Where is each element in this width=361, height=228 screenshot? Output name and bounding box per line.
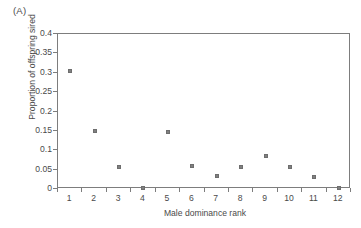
data-point <box>215 174 219 178</box>
data-point <box>68 69 72 73</box>
x-tick-label: 11 <box>300 193 326 203</box>
x-tick-mark <box>252 188 253 192</box>
x-tick-label: 7 <box>203 193 229 203</box>
x-tick-label: 6 <box>178 193 204 203</box>
y-tick-label: 0.15 <box>20 125 52 135</box>
y-tick-label: 0.35 <box>20 47 52 57</box>
panel-label: (A) <box>13 5 26 16</box>
x-tick-label: 10 <box>276 193 302 203</box>
x-tick-mark <box>130 188 131 192</box>
data-point <box>288 165 292 169</box>
x-tick-mark <box>301 188 302 192</box>
data-point <box>93 129 97 133</box>
x-tick-label: 5 <box>154 193 180 203</box>
y-tick-label: 0.3 <box>20 67 52 77</box>
x-tick-mark <box>350 188 351 192</box>
figure-panel-a: (A) Proportion of offspring sired 00.050… <box>0 0 361 228</box>
x-tick-label: 3 <box>105 193 131 203</box>
data-point <box>141 186 145 190</box>
x-axis-title: Male dominance rank <box>55 208 355 218</box>
y-tick-label: 0.2 <box>20 106 52 116</box>
x-tick-mark <box>277 188 278 192</box>
plot-area <box>57 33 350 188</box>
x-tick-mark <box>106 188 107 192</box>
y-tick-label: 0 <box>20 183 52 193</box>
data-point <box>239 165 243 169</box>
x-tick-mark <box>81 188 82 192</box>
x-tick-mark <box>326 188 327 192</box>
x-tick-mark <box>155 188 156 192</box>
data-point <box>117 165 121 169</box>
y-tick-label: 0.25 <box>20 86 52 96</box>
y-tick-label: 0.4 <box>20 28 52 38</box>
x-tick-label: 9 <box>252 193 278 203</box>
data-point <box>190 164 194 168</box>
data-point <box>312 175 316 179</box>
data-point <box>264 154 268 158</box>
x-tick-label: 12 <box>325 193 351 203</box>
x-tick-label: 4 <box>129 193 155 203</box>
data-point <box>166 130 170 134</box>
x-tick-label: 8 <box>227 193 253 203</box>
y-tick-label: 0.1 <box>20 144 52 154</box>
x-tick-mark <box>57 188 58 192</box>
x-tick-label: 1 <box>56 193 82 203</box>
x-tick-label: 2 <box>81 193 107 203</box>
x-tick-mark <box>228 188 229 192</box>
data-point <box>337 186 341 190</box>
y-tick-label: 0.05 <box>20 164 52 174</box>
x-tick-mark <box>204 188 205 192</box>
x-tick-mark <box>179 188 180 192</box>
